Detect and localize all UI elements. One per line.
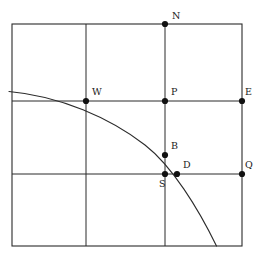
figure-canvas: N W P E B S D Q bbox=[0, 0, 259, 260]
point-D bbox=[174, 171, 180, 177]
point-N bbox=[162, 21, 168, 27]
point-W bbox=[83, 98, 89, 104]
point-label-Q: Q bbox=[245, 159, 253, 170]
point-label-P: P bbox=[171, 86, 178, 97]
point-P bbox=[162, 98, 168, 104]
point-label-W: W bbox=[92, 86, 102, 97]
point-group-B: B bbox=[162, 140, 178, 158]
point-label-S: S bbox=[159, 178, 166, 189]
point-label-B: B bbox=[171, 140, 178, 151]
point-Q bbox=[239, 171, 245, 177]
point-S bbox=[162, 171, 168, 177]
point-group-Q: Q bbox=[239, 159, 253, 177]
geometry-figure: N W P E B S D Q bbox=[0, 0, 259, 260]
point-group-E: E bbox=[239, 86, 252, 104]
point-B bbox=[162, 152, 168, 158]
frame-rectangle bbox=[12, 24, 242, 246]
point-label-D: D bbox=[183, 159, 191, 170]
point-label-E: E bbox=[245, 86, 252, 97]
point-E bbox=[239, 98, 245, 104]
point-label-N: N bbox=[172, 10, 180, 21]
